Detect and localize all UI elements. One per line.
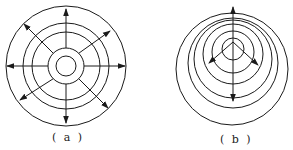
figure-b-label: ( b ) — [220, 133, 253, 146]
arrow-up-left — [24, 24, 53, 53]
arrow-down-right — [79, 79, 108, 108]
arrow-up-right — [79, 31, 110, 53]
diagram-canvas — [0, 0, 293, 150]
inner-circle — [56, 56, 76, 76]
figure-a — [6, 6, 126, 126]
figure-a-label: ( a ) — [52, 131, 84, 144]
figure-b — [176, 7, 288, 125]
circle-4 — [48, 48, 84, 84]
